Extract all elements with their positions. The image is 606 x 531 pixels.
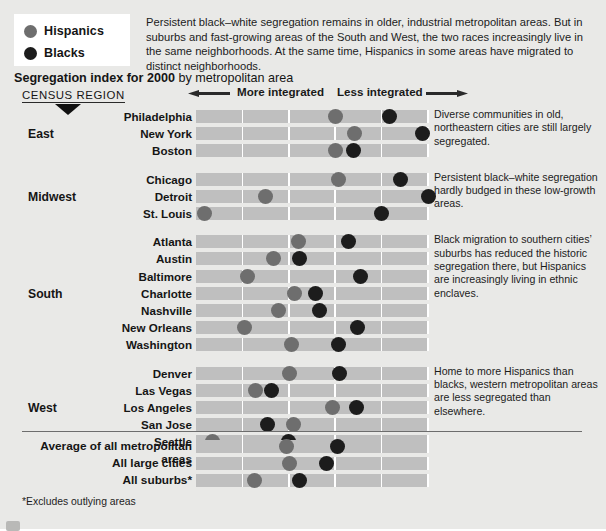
gridline xyxy=(334,304,336,317)
legend-label-hispanics: Hispanics xyxy=(44,25,104,38)
gridline xyxy=(288,270,290,283)
gridline xyxy=(427,304,429,317)
circle-marker-icon-blacks xyxy=(24,47,37,60)
row-track xyxy=(196,207,428,220)
gridline xyxy=(242,401,244,414)
summary-divider xyxy=(22,431,582,432)
row-track xyxy=(196,270,428,283)
gridline xyxy=(242,440,244,453)
legend-label-blacks: Blacks xyxy=(44,47,85,60)
gridline xyxy=(381,418,383,431)
gridline xyxy=(242,457,244,470)
row-label: Philadelphia xyxy=(48,110,192,123)
gridline xyxy=(288,384,290,397)
gridline xyxy=(288,173,290,186)
marker-blacks xyxy=(331,337,346,352)
gridline xyxy=(427,207,429,220)
gridline xyxy=(381,440,383,453)
gridline xyxy=(288,252,290,265)
row-label: Chicago xyxy=(48,173,192,186)
gridline xyxy=(427,235,429,248)
marker-blacks xyxy=(312,303,327,318)
gridline xyxy=(288,235,290,248)
axis-label-less-integrated: Less integrated xyxy=(337,85,423,98)
row-label: New Orleans xyxy=(48,321,192,334)
marker-hispanics xyxy=(328,143,343,158)
marker-blacks xyxy=(374,206,389,221)
marker-blacks xyxy=(349,400,364,415)
marker-blacks xyxy=(332,366,347,381)
row-label: Washington xyxy=(48,338,192,351)
gridline xyxy=(242,418,244,431)
row-track xyxy=(196,440,428,453)
marker-blacks xyxy=(292,473,307,488)
gridline xyxy=(427,401,429,414)
gridline xyxy=(288,474,290,487)
row-label: Nashville xyxy=(48,304,192,317)
row-label: All large cities xyxy=(20,457,192,470)
gridline xyxy=(334,235,336,248)
metro-row: New Orleans xyxy=(0,321,606,334)
marker-hispanics xyxy=(286,417,301,432)
gridline xyxy=(288,321,290,334)
gridline xyxy=(381,173,383,186)
arrow-right-icon xyxy=(426,90,468,97)
gridline xyxy=(242,127,244,140)
gridline xyxy=(242,367,244,380)
gridline xyxy=(242,338,244,351)
row-track xyxy=(196,457,428,470)
marker-blacks xyxy=(330,439,345,454)
marker-blacks xyxy=(260,417,275,432)
gridline xyxy=(381,457,383,470)
gridline xyxy=(242,252,244,265)
gridline xyxy=(242,144,244,157)
census-region-text: CENSUS REGION xyxy=(22,89,125,103)
gridline xyxy=(242,304,244,317)
gridline xyxy=(242,110,244,123)
row-label: Las Vegas xyxy=(48,384,192,397)
gridline xyxy=(288,144,290,157)
metro-row: San Jose xyxy=(0,418,606,431)
gridline xyxy=(427,457,429,470)
gridline xyxy=(334,384,336,397)
marker-hispanics xyxy=(282,366,297,381)
annotation-midwest: Persistent black–white segregation hardl… xyxy=(434,171,600,211)
gridline xyxy=(381,190,383,203)
gridline xyxy=(242,190,244,203)
gridline xyxy=(334,207,336,220)
marker-blacks xyxy=(292,251,307,266)
region-name-south: South xyxy=(28,287,128,301)
row-track xyxy=(196,235,428,248)
intro-paragraph: Persistent black–white segregation remai… xyxy=(146,15,598,73)
row-track xyxy=(196,287,428,300)
gridline xyxy=(427,474,429,487)
marker-hispanics xyxy=(240,269,255,284)
row-track xyxy=(196,304,428,317)
region-name-west: West xyxy=(28,401,128,415)
circle-marker-icon-hispanics xyxy=(24,25,37,38)
marker-hispanics xyxy=(237,320,252,335)
legend-item-hispanics: Hispanics xyxy=(24,20,122,42)
marker-blacks xyxy=(382,109,397,124)
gridline xyxy=(427,270,429,283)
legend: Hispanics Blacks xyxy=(14,14,130,66)
annotation-west: Home to more Hispanics than blacks, west… xyxy=(434,365,600,419)
row-label: All suburbs* xyxy=(20,474,192,487)
gridline xyxy=(427,173,429,186)
gridline xyxy=(381,287,383,300)
gridline xyxy=(242,474,244,487)
row-label: Atlanta xyxy=(48,235,192,248)
gridline xyxy=(334,418,336,431)
gridline xyxy=(381,401,383,414)
summary-row: All large cities xyxy=(0,457,606,470)
gridline xyxy=(334,321,336,334)
row-label: San Jose xyxy=(48,418,192,431)
marker-hispanics xyxy=(282,456,297,471)
gridline xyxy=(381,304,383,317)
marker-hispanics xyxy=(331,172,346,187)
gridline xyxy=(242,173,244,186)
row-label: St. Louis xyxy=(48,207,192,220)
gridline xyxy=(334,127,336,140)
metro-row: Nashville xyxy=(0,304,606,317)
marker-hispanics xyxy=(284,337,299,352)
